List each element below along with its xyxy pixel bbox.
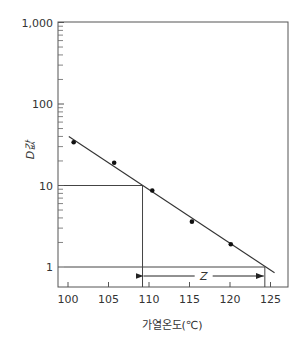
- data-point: [229, 242, 234, 247]
- x-tick-label: 115: [179, 293, 200, 306]
- z-label: Z: [199, 270, 208, 283]
- x-tick-label: 100: [58, 293, 79, 306]
- x-axis-ticks: 100105110115120125: [58, 282, 282, 306]
- x-tick-label: 125: [260, 293, 281, 306]
- y-tick-label: 1: [46, 261, 53, 274]
- data-point: [112, 160, 117, 165]
- data-points: [71, 140, 233, 247]
- x-tick-label: 120: [220, 293, 241, 306]
- x-tick-label: 105: [98, 293, 119, 306]
- y-tick-label: 10: [39, 180, 53, 193]
- data-point: [150, 188, 155, 193]
- reference-lines: [64, 186, 265, 288]
- d-value-chart: 1101001,000 100105110115120125 Z 가열온도(℃)…: [0, 0, 305, 353]
- x-tick-label: 110: [139, 293, 160, 306]
- y-tick-label: 1,000: [22, 17, 54, 30]
- data-point: [190, 219, 195, 224]
- plot-frame: [58, 22, 288, 287]
- fitted-line: [69, 136, 275, 272]
- z-arrow: Z: [144, 270, 264, 283]
- y-tick-label: 100: [32, 98, 53, 111]
- y-axis-title: D값: [24, 139, 37, 159]
- x-axis-title: 가열온도(℃): [142, 319, 203, 332]
- data-point: [71, 140, 76, 145]
